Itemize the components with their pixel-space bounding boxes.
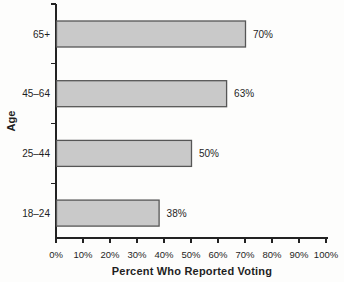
bar	[57, 81, 227, 107]
y-axis-title: Age	[5, 91, 21, 151]
value-label: 63%	[234, 88, 254, 99]
x-tick-label: 70%	[235, 249, 255, 260]
category-label: 25–44	[22, 148, 50, 159]
value-label: 50%	[199, 148, 219, 159]
plot-area: 0%10%20%30%40%50%60%70%80%90%100%65+70%4…	[0, 0, 344, 282]
x-tick-label: 0%	[49, 249, 63, 260]
x-tick-label: 50%	[181, 249, 201, 260]
category-label: 18–24	[22, 208, 50, 219]
x-tick-label: 60%	[208, 249, 228, 260]
bar	[57, 21, 246, 47]
value-label: 38%	[167, 208, 187, 219]
value-label: 70%	[253, 29, 273, 40]
x-tick-label: 90%	[289, 249, 309, 260]
category-label: 65+	[33, 29, 50, 40]
x-axis-title: Percent Who Reported Voting	[56, 265, 328, 277]
x-tick-label: 40%	[154, 249, 174, 260]
bar-chart-figure: 0%10%20%30%40%50%60%70%80%90%100%65+70%4…	[0, 0, 344, 282]
x-tick-label: 30%	[127, 249, 147, 260]
x-tick-label: 20%	[100, 249, 120, 260]
x-tick-label: 100%	[314, 249, 339, 260]
x-tick-label: 10%	[73, 249, 93, 260]
category-label: 45–64	[22, 88, 50, 99]
x-tick-label: 80%	[262, 249, 282, 260]
bar	[57, 200, 160, 226]
bar	[57, 140, 192, 166]
